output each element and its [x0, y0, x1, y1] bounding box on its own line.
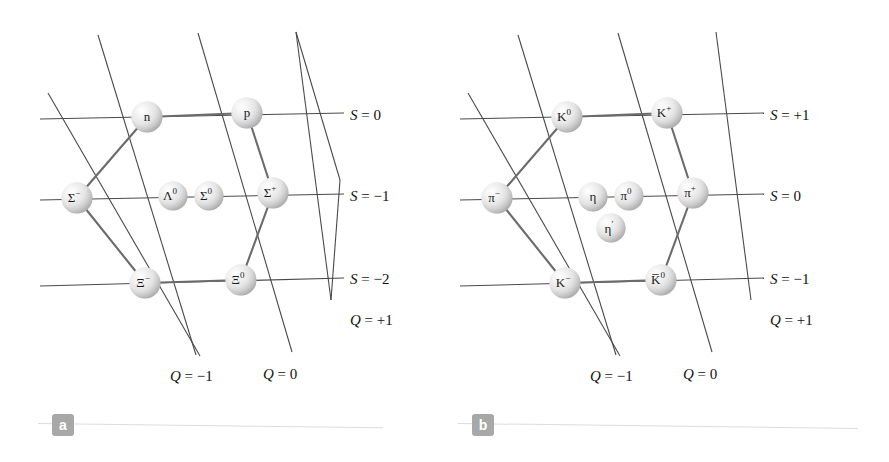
node-proton[interactable]: p	[232, 98, 263, 129]
node-lambda-zero[interactable]: Λ0	[159, 182, 188, 211]
particle-multiplet-figure: n p Σ− Λ0	[0, 0, 889, 462]
node-sigma-zero[interactable]: Σ0	[195, 182, 224, 211]
node-antikaon-zero[interactable]: K̅0	[646, 265, 677, 296]
q-label-plus1: Q = +1	[770, 312, 813, 328]
panel-a-caption-row: a	[0, 392, 444, 462]
q-label-minus1: Q = −1	[170, 368, 213, 384]
q-labels-a: Q = +1 Q = −1 Q = 0	[170, 312, 393, 384]
panel-a-rule	[38, 423, 383, 428]
nodes-b: K0 K+ π− η	[482, 98, 709, 299]
node-eta-label: η	[590, 189, 597, 204]
node-sigma-plus[interactable]: Σ+	[258, 178, 289, 209]
panel-b-svg: K0 K+ π− η	[444, 0, 889, 400]
s-label-minus1: S = −1	[770, 271, 809, 287]
s-label-plus1: S = +1	[770, 107, 809, 123]
panel-b-badge: b	[472, 414, 494, 436]
q-gridline-plus1-a	[296, 32, 331, 300]
node-proton-label: p	[244, 105, 251, 120]
node-eta-prime[interactable]: η′	[597, 214, 626, 243]
s-label-minus2: S = −2	[350, 271, 389, 287]
node-pion-plus[interactable]: π+	[678, 178, 709, 209]
q-label-plus1: Q = +1	[350, 312, 393, 328]
node-pion-zero[interactable]: π0	[615, 182, 644, 211]
node-neutron-label: n	[144, 109, 151, 124]
q-line-plus1	[716, 32, 751, 300]
s-label-0: S = 0	[770, 188, 801, 204]
panel-a-baryon-octet: n p Σ− Λ0	[0, 0, 444, 462]
s-labels-b: S = +1 S = 0 S = −1	[770, 107, 809, 287]
q-label-0: Q = 0	[683, 366, 717, 382]
nodes-a: n p Σ− Λ0	[62, 98, 289, 299]
s-label-0: S = 0	[350, 107, 381, 123]
s-labels-a: S = 0 S = −1 S = −2	[350, 107, 389, 287]
q-labels-b: Q = +1 Q = −1 Q = 0	[590, 312, 813, 384]
node-neutron[interactable]: n	[132, 102, 163, 133]
q-label-minus1: Q = −1	[590, 368, 633, 384]
node-xi-minus[interactable]: Ξ−	[130, 268, 161, 299]
node-eta[interactable]: η	[579, 183, 608, 212]
node-sigma-minus[interactable]: Σ−	[62, 183, 93, 214]
q-line-plus1-upper	[296, 32, 340, 180]
q-line-plus1-lower	[331, 180, 340, 300]
lattice-diagonals-a	[48, 93, 200, 356]
node-xi-zero[interactable]: Ξ0	[226, 265, 257, 296]
panel-a-svg: n p Σ− Λ0	[0, 0, 444, 400]
lattice-diag-left	[48, 93, 200, 356]
panel-a-badge: a	[52, 414, 74, 436]
q-label-0: Q = 0	[263, 366, 297, 382]
node-kaon-minus[interactable]: K−	[550, 268, 581, 299]
panel-b-caption-row: b	[444, 392, 889, 462]
s-label-minus1: S = −1	[350, 188, 389, 204]
panel-b-rule	[458, 423, 858, 429]
panel-b-meson-nonet: K0 K+ π− η	[444, 0, 889, 462]
node-pion-minus[interactable]: π−	[482, 183, 513, 214]
node-kaon-zero[interactable]: K0	[552, 102, 583, 133]
node-kaon-plus[interactable]: K+	[652, 98, 683, 129]
